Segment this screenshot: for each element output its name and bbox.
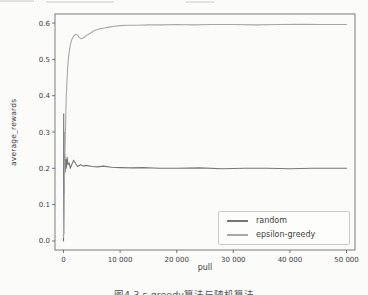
svg-text:0.5: 0.5 [39, 56, 50, 64]
figure-caption-clipped: 图4.3 ε-greedy算法与随机算法 [0, 287, 368, 295]
legend-line-swatch-epsilon-greedy [227, 234, 248, 236]
svg-text:0.6: 0.6 [39, 20, 51, 28]
legend: random epsilon-greedy [218, 211, 350, 245]
legend-item-epsilon-greedy: epsilon-greedy [227, 230, 341, 240]
svg-text:0.4: 0.4 [39, 92, 51, 100]
svg-text:0.1: 0.1 [39, 201, 50, 209]
y-axis-label: average_rewards [9, 14, 18, 250]
legend-label-epsilon-greedy: epsilon-greedy [256, 230, 315, 240]
svg-text:0.3: 0.3 [39, 129, 50, 137]
x-axis-label: pull [55, 263, 355, 272]
legend-line-swatch-random [227, 220, 248, 222]
svg-text:0.0: 0.0 [39, 237, 50, 245]
scanned-figure-page: 010 00020 00030 00040 00050 0000.00.10.2… [0, 0, 368, 295]
svg-text:0.2: 0.2 [39, 165, 50, 173]
legend-label-random: random [256, 216, 287, 226]
reward-chart: 010 00020 00030 00040 00050 0000.00.10.2… [0, 0, 368, 282]
legend-item-random: random [227, 216, 341, 226]
